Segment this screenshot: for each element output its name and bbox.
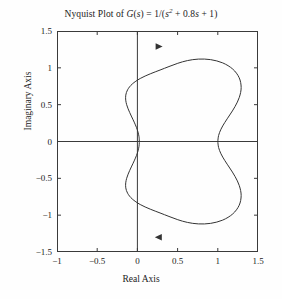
direction-arrow-lower-icon: [155, 234, 162, 240]
chart-title-eq: = 1/(: [144, 9, 165, 19]
chart-title-mid: + 0.8: [173, 9, 196, 19]
y-tick-label: 0.5: [14, 100, 52, 110]
x-tick-label: −0.5: [89, 256, 105, 266]
chart-title-g: G: [127, 9, 134, 19]
y-tick-label: −1.5: [14, 247, 52, 257]
x-tick-label: 1.5: [252, 256, 263, 266]
y-tick-label: 0: [14, 137, 52, 147]
x-tick-label: −1: [52, 256, 62, 266]
plot-area: [57, 31, 258, 252]
y-tick-label: 1: [14, 63, 52, 73]
chart-title-prefix: Nyquist Plot of: [65, 9, 127, 19]
nyquist-plot-figure: Nyquist Plot of G(s) = 1/(s2 + 0.8s + 1)…: [0, 0, 282, 299]
y-tick-label: 1.5: [14, 26, 52, 36]
x-tick-label: 0: [135, 256, 140, 266]
x-tick-label: 0.5: [172, 256, 183, 266]
y-tick-label: −0.5: [14, 173, 52, 183]
y-tick-label: −1: [14, 210, 52, 220]
x-axis-label: Real Axis: [0, 274, 282, 284]
plot-canvas: [57, 31, 258, 252]
chart-title-tail: + 1): [199, 9, 218, 19]
x-tick-label: 1: [216, 256, 221, 266]
direction-arrow-upper-icon: [156, 43, 163, 49]
chart-title: Nyquist Plot of G(s) = 1/(s2 + 0.8s + 1): [0, 7, 282, 19]
